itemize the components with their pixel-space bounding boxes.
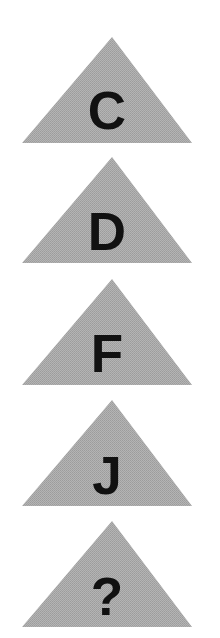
triangle-letter: C <box>22 84 192 137</box>
triangle-2: D <box>22 157 192 263</box>
triangle-5: ? <box>22 521 192 627</box>
letter-sequence-puzzle: C D F J ? <box>0 0 220 638</box>
triangle-letter: J <box>22 449 192 502</box>
question-mark: ? <box>22 570 192 623</box>
triangle-letter: D <box>22 205 192 258</box>
triangle-3: F <box>22 279 192 385</box>
triangle-1: C <box>22 37 192 143</box>
triangle-letter: F <box>22 327 192 380</box>
triangle-4: J <box>22 400 192 506</box>
